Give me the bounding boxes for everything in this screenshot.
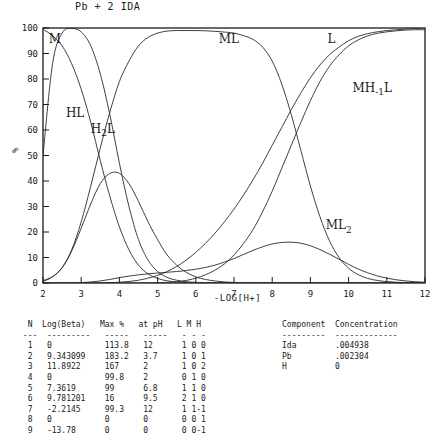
species-table: N Log(Beta) Max % at pH L M H --- ------… bbox=[18, 320, 206, 437]
y-tick-label: 0 bbox=[33, 278, 38, 288]
y-tick-label: 90 bbox=[27, 49, 38, 59]
y-tick-label: 50 bbox=[27, 151, 38, 161]
y-axis-label: % bbox=[10, 148, 20, 153]
curve-label-hl: HL bbox=[66, 106, 84, 120]
curves-group bbox=[43, 28, 425, 283]
page-title: Pb + 2 IDA bbox=[75, 1, 140, 12]
tables-region: N Log(Beta) Max % at pH L M H --- ------… bbox=[0, 320, 445, 447]
species-curve-ml bbox=[43, 31, 425, 283]
species-curve-m bbox=[43, 28, 425, 283]
curve-label-mh-1l: MH-1L bbox=[352, 81, 392, 98]
curve-label-l: L bbox=[328, 32, 336, 46]
species-curve-hl bbox=[43, 172, 425, 283]
x-axis-label: -LOG[H+] bbox=[0, 293, 445, 303]
curve-label-ml: ML bbox=[219, 32, 239, 46]
component-table: Component Concentration --------- ------… bbox=[282, 320, 398, 373]
curve-label-ml2: ML2 bbox=[326, 218, 352, 235]
plot-svg: 010203040506070809010023456789101112MHLH… bbox=[0, 18, 445, 318]
species-curve-l bbox=[43, 28, 425, 283]
speciation-chart: 010203040506070809010023456789101112MHLH… bbox=[0, 18, 445, 318]
y-tick-label: 20 bbox=[27, 227, 38, 237]
curve-label-h2l: H2L bbox=[91, 122, 115, 138]
curve-label-m: M bbox=[49, 32, 61, 46]
species-curve-ml2 bbox=[43, 242, 425, 283]
species-curve-h2l bbox=[43, 29, 425, 283]
plot-frame bbox=[43, 28, 425, 283]
y-tick-label: 80 bbox=[27, 74, 38, 84]
species-curve-mh-1l bbox=[43, 30, 425, 283]
y-tick-label: 10 bbox=[27, 253, 38, 263]
y-tick-label: 100 bbox=[22, 23, 38, 33]
y-tick-label: 60 bbox=[27, 125, 38, 135]
y-tick-label: 70 bbox=[27, 100, 38, 110]
speciation-diagram-page: Pb + 2 IDA 01020304050607080901002345678… bbox=[0, 0, 445, 447]
y-tick-label: 30 bbox=[27, 202, 38, 212]
y-tick-label: 40 bbox=[27, 176, 38, 186]
x-axis-label-text: -LOG[H+] bbox=[184, 293, 261, 303]
